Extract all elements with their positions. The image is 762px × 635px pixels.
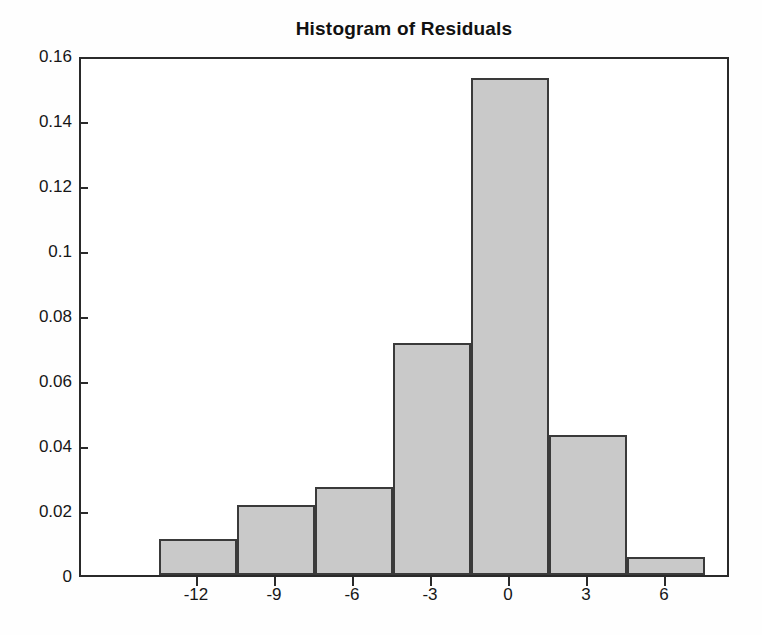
y-tick-mark xyxy=(79,512,88,514)
y-tick-mark xyxy=(79,187,88,189)
y-tick-label: 0 xyxy=(2,567,72,587)
bars-layer xyxy=(81,59,727,575)
y-tick-mark xyxy=(79,447,88,449)
histogram-bar xyxy=(159,539,237,575)
histogram-bar xyxy=(471,78,549,575)
y-tick-label: 0.04 xyxy=(2,437,72,457)
y-tick-label: 0.12 xyxy=(2,177,72,197)
y-tick-label: 0.16 xyxy=(2,47,72,67)
plot-area xyxy=(79,57,729,577)
x-tick-label: -3 xyxy=(400,585,460,605)
y-tick-label: 0.02 xyxy=(2,502,72,522)
y-tick-mark xyxy=(79,317,88,319)
x-tick-label: -9 xyxy=(244,585,304,605)
y-tick-mark xyxy=(79,122,88,124)
chart-title: Histogram of Residuals xyxy=(79,18,729,40)
histogram-bar xyxy=(393,343,471,575)
y-tick-mark xyxy=(79,252,88,254)
histogram-bar xyxy=(549,435,627,575)
y-tick-label: 0.1 xyxy=(2,242,72,262)
histogram-bar xyxy=(315,487,393,575)
x-tick-label: -6 xyxy=(322,585,382,605)
y-tick-mark xyxy=(79,382,88,384)
x-tick-label: -12 xyxy=(166,585,226,605)
x-tick-label: 0 xyxy=(478,585,538,605)
histogram-bar xyxy=(627,557,705,575)
y-tick-label: 0.08 xyxy=(2,307,72,327)
histogram-bar xyxy=(237,505,315,575)
y-tick-label: 0.06 xyxy=(2,372,72,392)
x-tick-label: 3 xyxy=(556,585,616,605)
histogram-figure: Histogram of Residuals 00.020.040.060.08… xyxy=(0,0,762,635)
y-tick-label: 0.14 xyxy=(2,112,72,132)
x-tick-label: 6 xyxy=(634,585,694,605)
